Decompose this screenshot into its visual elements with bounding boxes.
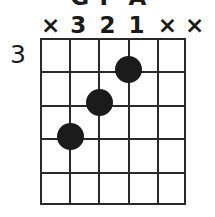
string-line-2 (69, 38, 71, 205)
fret-line-top (40, 38, 186, 40)
finger-dot-string4-fret1 (115, 56, 142, 83)
fret-line-5 (40, 203, 186, 205)
fret-line-4 (40, 172, 186, 174)
string-line-1 (40, 38, 42, 205)
starting-fret-label: 3 (2, 38, 34, 72)
fret-line-1 (40, 71, 186, 73)
string-line-3 (98, 38, 100, 205)
string-line-5 (157, 38, 159, 205)
string-marker-row: ×321×× (40, 12, 186, 38)
fret-line-2 (40, 105, 186, 107)
finger-dot-string3-fret2 (86, 89, 113, 116)
chord-diagram: GFA ×321×× 3 (0, 0, 215, 217)
finger-dot-string2-fret3 (57, 123, 84, 150)
fretboard-grid (40, 38, 186, 205)
chord-title-row: GFA (40, 0, 186, 7)
string-line-6 (184, 38, 186, 205)
